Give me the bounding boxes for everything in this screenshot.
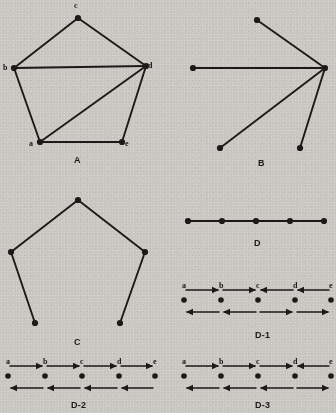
node-D-3-b	[218, 373, 224, 379]
arrow-D-3-top-1-head	[249, 363, 256, 369]
figure-caption-A: A	[74, 155, 81, 165]
node-D-1-c	[255, 297, 261, 303]
node-label-D-1-e: e	[329, 281, 333, 290]
arrow-D-2-top-0-head	[36, 363, 43, 369]
node-label-D-2-a: a	[6, 357, 10, 366]
arrow-D-1-top-3-head	[297, 287, 304, 293]
vertex-label-A-a: a	[29, 139, 33, 148]
node-D-3-a	[181, 373, 187, 379]
arrow-D-1-top-0-head	[212, 287, 219, 293]
arrow-D-1-bottom-1-head	[223, 309, 230, 315]
arrow-D-3-top-3-head	[297, 363, 304, 369]
node-D-1-b	[218, 297, 224, 303]
node-label-D-1-d: d	[293, 281, 297, 290]
arrow-D-2-top-1-head	[73, 363, 80, 369]
arrow-D-3-top-0-head	[212, 363, 219, 369]
arrow-D-3-bottom-2-head	[260, 385, 267, 391]
arrow-D-2-top-3-head	[146, 363, 153, 369]
node-label-D-2-c: c	[80, 357, 84, 366]
node-D-3-d	[292, 373, 298, 379]
vertex-label-A-d: d	[148, 61, 152, 70]
arrow-D-2-bottom-0-head	[10, 385, 17, 391]
node-label-D-1-b: b	[219, 281, 223, 290]
arrow-D-3-bottom-0-head	[186, 385, 193, 391]
figure-caption-D-1: D-1	[255, 330, 270, 340]
arrow-D-2-top-2-head	[110, 363, 117, 369]
vertex-label-A-c: c	[74, 1, 78, 10]
arrow-D-1-top-1-head	[249, 287, 256, 293]
node-label-D-1-c: c	[256, 281, 260, 290]
node-D-1-e	[328, 297, 334, 303]
node-D-3-e	[328, 373, 334, 379]
arrow-D-1-bottom-3-head	[322, 309, 329, 315]
node-label-D-1-a: a	[182, 281, 186, 290]
node-label-D-3-c: c	[256, 357, 260, 366]
node-label-D-3-d: d	[293, 357, 297, 366]
arrow-D-1-bottom-2-head	[286, 309, 293, 315]
node-D-3-c	[255, 373, 261, 379]
arrow-D-2-bottom-1-head	[47, 385, 54, 391]
node-D-2-e	[152, 373, 158, 379]
arrow-D-3-bottom-1-head	[223, 385, 230, 391]
arrow-D-2-bottom-3-head	[121, 385, 128, 391]
figure-caption-B: B	[258, 158, 265, 168]
figure-caption-C: C	[74, 337, 81, 347]
node-label-D-3-e: e	[329, 357, 333, 366]
arrow-D-1-top-2-head	[260, 287, 267, 293]
traversal-layer	[0, 0, 336, 413]
node-D-1-a	[181, 297, 187, 303]
arrow-D-1-bottom-0-head	[186, 309, 193, 315]
node-D-2-a	[5, 373, 11, 379]
figure-sheet: abcdeABCDabcdeD-1abcdeD-2abcdeD-3	[0, 0, 336, 413]
node-D-2-d	[116, 373, 122, 379]
node-label-D-2-e: e	[153, 357, 157, 366]
node-D-2-b	[42, 373, 48, 379]
figure-caption-D-2: D-2	[71, 400, 86, 410]
node-label-D-3-a: a	[182, 357, 186, 366]
node-D-2-c	[79, 373, 85, 379]
figure-caption-D: D	[254, 238, 261, 248]
arrow-D-3-bottom-3-head	[322, 385, 329, 391]
arrow-D-3-top-2-head	[286, 363, 293, 369]
node-D-1-d	[292, 297, 298, 303]
vertex-label-A-b: b	[3, 63, 7, 72]
figure-caption-D-3: D-3	[255, 400, 270, 410]
node-label-D-2-d: d	[117, 357, 121, 366]
vertex-label-A-e: e	[125, 139, 129, 148]
arrow-D-2-bottom-2-head	[84, 385, 91, 391]
node-label-D-3-b: b	[219, 357, 223, 366]
node-label-D-2-b: b	[43, 357, 47, 366]
